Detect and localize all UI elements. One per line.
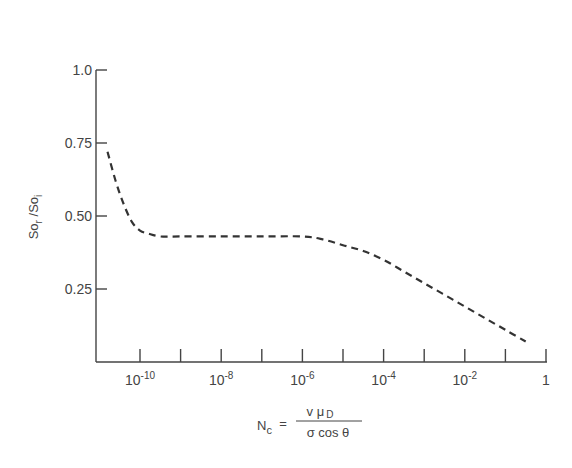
y-title-slash: /So xyxy=(26,197,41,220)
svg-text:Nc: Nc xyxy=(257,418,272,436)
y-title-sub-i: i xyxy=(33,195,44,197)
svg-text:Sor /Soi: Sor /Soi xyxy=(26,195,44,240)
y-tick-label: 0.25 xyxy=(65,281,92,297)
axes xyxy=(96,70,547,362)
svg-text:v μD: v μD xyxy=(307,404,334,420)
y-tick-label: 0.50 xyxy=(65,208,92,224)
y-tick-label: 1.0 xyxy=(73,62,93,78)
x-tick-label: 10-2 xyxy=(453,370,478,388)
x-title-n-sub: c xyxy=(267,424,273,436)
x-tick-label: 10-4 xyxy=(371,370,396,388)
y-axis-title: Sor /Soi xyxy=(26,195,44,240)
x-tick-label: 1 xyxy=(542,372,550,388)
x-title-n: N xyxy=(257,418,266,433)
x-tick-label: 10-8 xyxy=(209,370,234,388)
x-title-denominator: σ cos θ xyxy=(307,425,350,440)
x-title-numerator: v μ xyxy=(307,404,325,419)
chart: 1.00.750.500.25 10-1010-810-610-410-21 S… xyxy=(0,0,572,468)
x-tick-label: 10-10 xyxy=(125,370,155,388)
y-title-main: So xyxy=(26,223,41,239)
x-tick-label: 10-6 xyxy=(290,370,315,388)
x-ticks: 10-1010-810-610-410-21 xyxy=(125,349,550,388)
x-title-numerator-sub: D xyxy=(326,409,333,420)
x-axis-title: Nc = v μD σ cos θ xyxy=(257,404,362,440)
y-tick-label: 0.75 xyxy=(65,135,92,151)
data-series-line xyxy=(108,152,526,342)
x-title-equals: = xyxy=(279,416,287,431)
y-ticks: 1.00.750.500.25 xyxy=(65,62,107,297)
